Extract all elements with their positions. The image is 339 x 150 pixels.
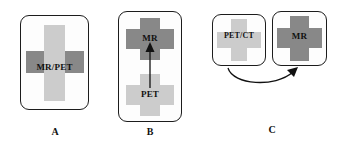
panel-b-caption: B bbox=[135, 126, 165, 137]
figure-canvas: MR/PET A MR PET B PET/CT bbox=[0, 0, 339, 150]
panel-a-caption: A bbox=[40, 126, 70, 137]
panel-a: MR/PET A bbox=[0, 0, 110, 150]
panel-c-caption: C bbox=[257, 124, 287, 135]
mr-pet-label: MR/PET bbox=[20, 62, 89, 72]
panel-c: PET/CT MR C bbox=[195, 0, 339, 150]
panel-b: MR PET B bbox=[110, 0, 195, 150]
